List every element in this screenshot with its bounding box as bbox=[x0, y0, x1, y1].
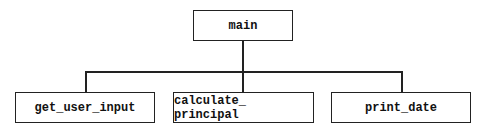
node-label: print_date bbox=[365, 101, 437, 115]
horizontal-connector bbox=[85, 71, 402, 73]
child-connector-3 bbox=[401, 71, 403, 93]
main-node-label: main bbox=[229, 19, 258, 33]
print-date-node: print_date bbox=[331, 92, 471, 123]
main-node: main bbox=[193, 10, 293, 41]
child-connector-1 bbox=[85, 71, 87, 93]
get-user-input-node: get_user_input bbox=[15, 92, 155, 123]
root-connector bbox=[242, 41, 244, 72]
calculate-principal-node: calculate_ principal bbox=[173, 92, 314, 123]
node-label: calculate_ principal bbox=[174, 94, 313, 122]
child-connector-2 bbox=[242, 71, 244, 93]
node-label: get_user_input bbox=[35, 101, 136, 115]
